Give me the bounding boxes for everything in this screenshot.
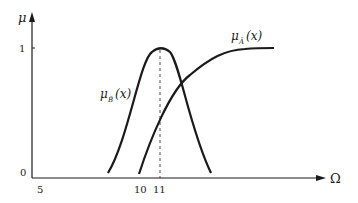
svg-text:(x): (x) <box>246 29 262 43</box>
x-tick-label-11: 11 <box>153 184 166 195</box>
y-axis-label: μ <box>18 10 26 25</box>
y-axis-arrow-icon <box>29 12 35 22</box>
x-axis-label: Ω <box>330 171 341 186</box>
legend-mu-b: μ B̃ (x) <box>100 87 131 104</box>
membership-chart: μ 1 0 5 10 11 Ω μ B̃ (x) μ Ã (x) <box>0 0 358 203</box>
svg-text:(x): (x) <box>115 87 131 101</box>
y-tick-label-0: 0 <box>20 167 26 178</box>
svg-text:B̃: B̃ <box>107 95 113 104</box>
x-tick-label-5: 5 <box>37 184 43 195</box>
x-tick-label-10: 10 <box>134 184 147 195</box>
curve-mu-a <box>139 48 274 174</box>
svg-text:μ: μ <box>100 87 108 101</box>
curve-mu-b <box>108 48 211 173</box>
svg-text:Ã: Ã <box>238 37 244 46</box>
svg-text:μ: μ <box>231 29 239 43</box>
y-tick-label-1: 1 <box>19 43 25 54</box>
legend-mu-a: μ Ã (x) <box>231 29 262 46</box>
x-axis-arrow-icon <box>316 175 326 181</box>
